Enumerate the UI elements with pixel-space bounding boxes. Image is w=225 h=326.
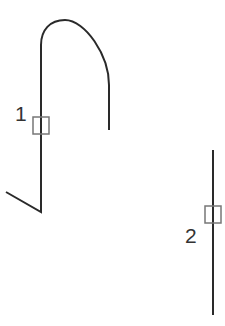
path-1-group: 1 <box>6 20 109 212</box>
diagram-canvas: 1 2 <box>0 0 225 326</box>
path-2-label: 2 <box>185 224 197 247</box>
path-1-label: 1 <box>15 102 27 125</box>
path-2-group: 2 <box>185 150 221 315</box>
